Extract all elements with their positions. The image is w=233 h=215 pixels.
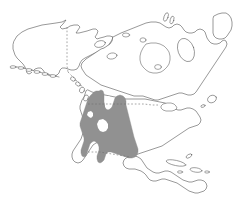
hispaniola <box>190 167 202 173</box>
greenland-fringe-outline <box>213 13 232 39</box>
cuba <box>166 158 187 167</box>
aleutian-island-6 <box>50 75 56 78</box>
arctic-island-devon <box>169 16 175 25</box>
alexander-archipelago-island-2 <box>75 81 81 87</box>
aleutian-island-4 <box>34 71 40 74</box>
puerto-rico <box>205 171 210 173</box>
arctic-island-melville <box>122 33 129 37</box>
aleutian-island-5 <box>42 73 48 76</box>
arctic-island-ellesmere <box>163 12 170 22</box>
arctic-island-prince-of-wales <box>140 38 146 42</box>
alexander-archipelago-island-1 <box>70 76 77 82</box>
jamaica <box>177 171 182 173</box>
newfoundland <box>206 94 217 104</box>
bahamas <box>185 153 192 159</box>
aleutian-island-3 <box>26 69 32 72</box>
map-svg <box>0 0 233 215</box>
haida-gwaii <box>79 86 86 93</box>
prince-edward-island <box>201 104 206 108</box>
aleutian-island-2 <box>18 67 24 70</box>
aleutian-island-1 <box>10 66 16 69</box>
great-lakes <box>161 103 177 111</box>
range-map-figure <box>0 0 233 215</box>
southampton-island <box>155 65 162 70</box>
